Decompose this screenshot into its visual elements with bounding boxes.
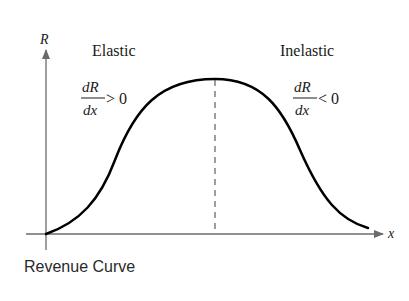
y-axis-label: R	[39, 32, 49, 47]
x-axis-label: x	[387, 226, 395, 241]
revenue-curve-diagram: R x Elastic dR dx > 0 Inelastic dR dx < …	[0, 0, 409, 301]
inelastic-label: Inelastic	[280, 42, 334, 59]
diagram-caption: Revenue Curve	[24, 258, 135, 276]
inelastic-derivative-numerator: dR	[294, 79, 311, 95]
elastic-relation: > 0	[106, 90, 127, 107]
elastic-derivative-numerator: dR	[82, 79, 99, 95]
elastic-derivative-denominator: dx	[83, 102, 98, 118]
elastic-label: Elastic	[92, 42, 136, 59]
inelastic-relation: < 0	[318, 90, 339, 107]
inelastic-derivative-denominator: dx	[295, 102, 310, 118]
